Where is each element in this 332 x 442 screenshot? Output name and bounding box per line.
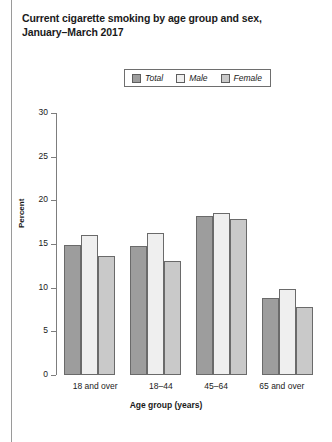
- chart-legend: TotalMaleFemale: [124, 69, 271, 87]
- bar-total: [130, 246, 147, 375]
- bar-male: [81, 235, 98, 375]
- legend-label: Male: [189, 73, 207, 83]
- bar-group: [262, 113, 313, 375]
- bar-male: [213, 213, 230, 375]
- x-axis-title: Age group (years): [0, 400, 332, 410]
- bar-group: [196, 113, 247, 375]
- legend-item-female: Female: [221, 73, 262, 83]
- bar-female: [230, 219, 247, 375]
- chart-figure: Current cigarette smoking by age group a…: [0, 0, 332, 442]
- chart-title: Current cigarette smoking by age group a…: [22, 12, 322, 39]
- legend-label: Female: [234, 73, 262, 83]
- x-axis-tick-label: 18 and over: [73, 381, 118, 391]
- x-axis-tick-label: 45–64: [204, 381, 228, 391]
- bar-female: [164, 261, 181, 375]
- plot-area: 051015202530: [56, 113, 320, 375]
- chart-title-line-2: January–March 2017: [22, 26, 322, 40]
- y-axis-tick: 5: [51, 331, 56, 332]
- bar-groups: [57, 113, 320, 375]
- x-axis-tick-labels: 18 and over18–4445–6465 and over: [57, 381, 320, 391]
- y-axis-tick-label: 5: [43, 325, 48, 335]
- y-axis-tick: 20: [51, 200, 56, 201]
- y-axis-tick-label: 15: [39, 238, 48, 248]
- bar-female: [296, 307, 313, 375]
- bar-total: [196, 216, 213, 375]
- y-axis-tick-label: 0: [43, 369, 48, 379]
- bar-group: [64, 113, 115, 375]
- bar-total: [64, 245, 81, 375]
- y-axis-tick-label: 20: [39, 194, 48, 204]
- y-axis-tick: 25: [51, 157, 56, 158]
- x-axis-tick-label: 65 and over: [259, 381, 304, 391]
- y-axis-tick: 15: [51, 244, 56, 245]
- bar-group: [130, 113, 181, 375]
- x-axis-tick-label: 18–44: [149, 381, 173, 391]
- bar-total: [262, 298, 279, 375]
- legend-item-male: Male: [176, 73, 207, 83]
- legend-swatch-icon-female: [221, 74, 230, 83]
- bar-male: [279, 289, 296, 375]
- y-axis-tick: 0: [51, 375, 56, 376]
- y-axis-tick-label: 30: [39, 107, 48, 117]
- legend-label: Total: [145, 73, 163, 83]
- chart-title-line-1: Current cigarette smoking by age group a…: [22, 12, 322, 26]
- y-axis-tick-label: 25: [39, 151, 48, 161]
- bar-female: [98, 256, 115, 375]
- bar-male: [147, 233, 164, 375]
- legend-item-total: Total: [132, 73, 163, 83]
- y-axis-tick: 30: [51, 113, 56, 114]
- y-axis-tick: 10: [51, 288, 56, 289]
- legend-swatch-icon-male: [176, 74, 185, 83]
- legend-swatch-icon-total: [132, 74, 141, 83]
- y-axis-title: Percent: [17, 199, 26, 228]
- y-axis-tick-label: 10: [39, 282, 48, 292]
